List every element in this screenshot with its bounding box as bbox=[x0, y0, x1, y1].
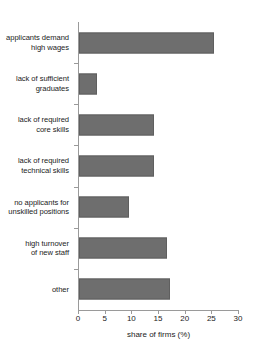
category-label-line: unskilled positions bbox=[8, 207, 69, 217]
x-axis-tick-label: 5 bbox=[90, 314, 120, 323]
category-label-line: lack of required bbox=[18, 156, 69, 166]
x-axis-title: share of firms (%) bbox=[78, 330, 239, 339]
bar-row bbox=[78, 63, 238, 104]
category-label-line: lack of required bbox=[18, 115, 69, 125]
category-label: lack of requiredtechnical skills bbox=[0, 145, 73, 186]
category-label-line: high wages bbox=[31, 43, 69, 53]
bar-row bbox=[78, 228, 238, 269]
category-label: lack of requiredcore skills bbox=[0, 104, 73, 145]
category-label-line: graduates bbox=[36, 84, 69, 94]
bar-row bbox=[78, 22, 238, 63]
category-label: lack of sufficientgraduates bbox=[0, 63, 73, 104]
category-label-line: other bbox=[52, 285, 69, 295]
category-label: high turnoverof new staff bbox=[0, 228, 73, 269]
bar-row bbox=[78, 104, 238, 145]
category-label-line: core skills bbox=[36, 125, 69, 135]
category-label-line: applicants demand bbox=[6, 33, 69, 43]
category-label-line: no applicants for bbox=[14, 198, 69, 208]
x-axis-tick-label: 0 bbox=[63, 314, 93, 323]
category-label-line: lack of sufficient bbox=[16, 74, 69, 84]
x-axis-tick-label: 30 bbox=[223, 314, 253, 323]
plot-area bbox=[78, 22, 238, 310]
category-label-line: of new staff bbox=[31, 248, 69, 258]
bar bbox=[79, 114, 154, 135]
bar-rows bbox=[78, 22, 238, 310]
category-axis-labels: applicants demandhigh wageslack of suffi… bbox=[0, 22, 73, 310]
bar bbox=[79, 279, 170, 300]
x-axis-tick-label: 20 bbox=[170, 314, 200, 323]
bar bbox=[79, 73, 97, 94]
bar-row bbox=[78, 187, 238, 228]
bar bbox=[79, 155, 154, 176]
category-label: no applicants forunskilled positions bbox=[0, 187, 73, 228]
bar bbox=[79, 32, 214, 53]
x-axis-tick-label: 25 bbox=[196, 314, 226, 323]
bar-row bbox=[78, 269, 238, 310]
bar-row bbox=[78, 145, 238, 186]
category-label-line: high turnover bbox=[25, 239, 69, 249]
x-axis-tick-label: 15 bbox=[143, 314, 173, 323]
bar bbox=[79, 197, 129, 218]
bar bbox=[79, 238, 167, 259]
category-label-line: technical skills bbox=[21, 166, 69, 176]
x-axis-tick-label: 10 bbox=[116, 314, 146, 323]
x-axis-tick-labels: 051015202530 bbox=[0, 314, 265, 326]
bar-chart: applicants demandhigh wageslack of suffi… bbox=[0, 0, 265, 354]
category-label: applicants demandhigh wages bbox=[0, 22, 73, 63]
category-label: other bbox=[0, 269, 73, 310]
